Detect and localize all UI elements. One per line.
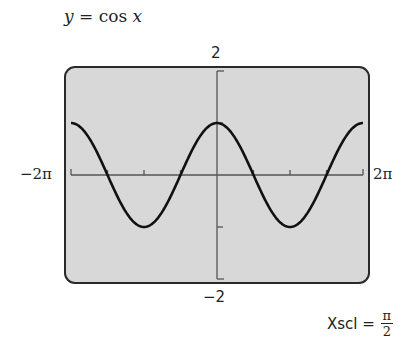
xscl-numerator: π [383, 309, 392, 322]
xscl-fraction: π 2 [381, 309, 393, 338]
xscl-text: Xscl = [327, 315, 375, 333]
plot-area [0, 0, 417, 338]
xscl-denominator: 2 [383, 325, 391, 338]
xscl-label: Xscl = π 2 [327, 309, 393, 338]
